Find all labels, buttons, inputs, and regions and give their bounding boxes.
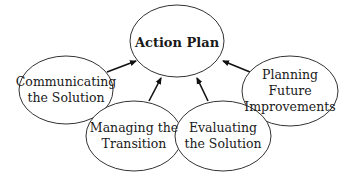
node-action-plan-label: Action Plan [135,35,219,51]
diagram-canvas: Action Plan Communicating the Solution M… [0,0,357,179]
node-evaluating-line1: Evaluating [184,120,261,136]
node-communicating-line2: the Solution [16,90,116,106]
node-communicating-label: Communicating the Solution [16,74,116,106]
node-planning-line1: Planning [244,67,336,83]
node-planning-line2: Future [244,83,336,99]
arrow-evaluating-to-action-plan [197,78,208,101]
node-managing-line1: Managing the [90,120,178,136]
arrow-managing-to-action-plan [149,78,161,101]
node-planning-label: Planning Future Improvements [244,67,336,115]
arrow-communicating-to-action-plan [107,61,136,72]
node-planning-line3: Improvements [244,99,336,115]
node-communicating-line1: Communicating [16,74,116,90]
node-managing-line2: Transition [90,136,178,152]
node-managing-label: Managing the Transition [90,120,178,152]
node-evaluating-label: Evaluating the Solution [184,120,261,152]
node-evaluating-line2: the Solution [184,136,261,152]
